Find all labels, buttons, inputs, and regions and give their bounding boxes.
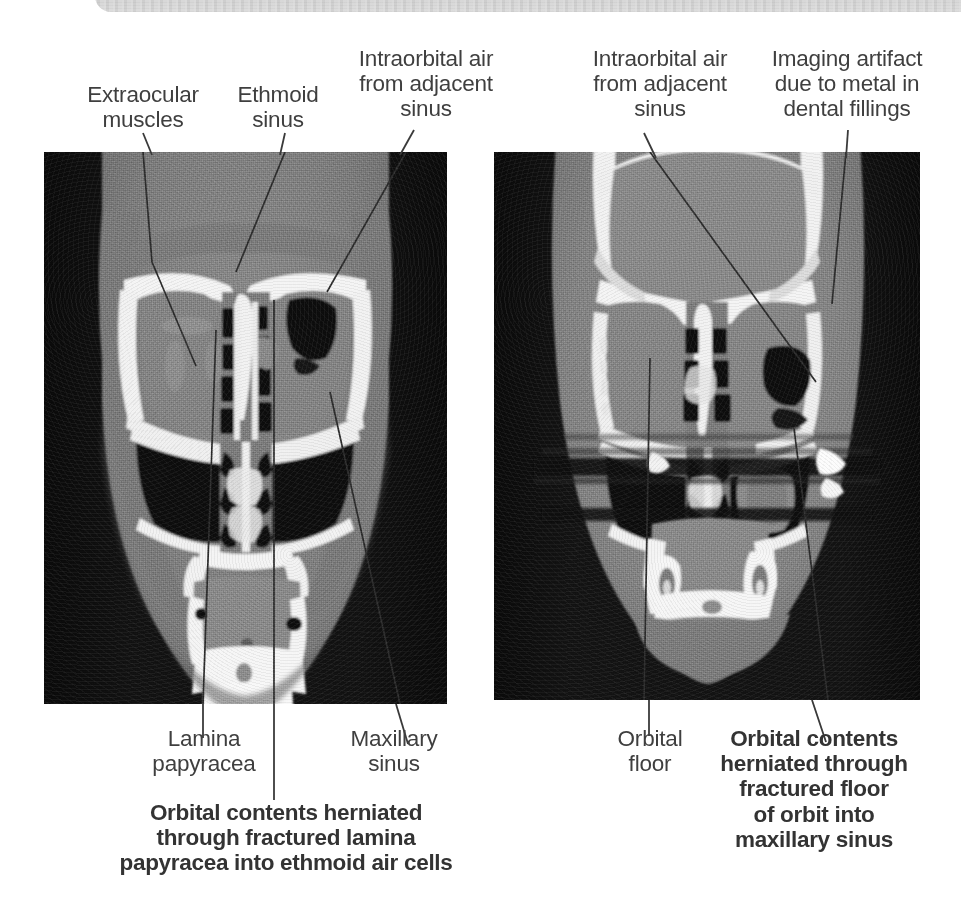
- label-ethmoid-sinus: Ethmoid sinus: [224, 82, 332, 132]
- ct-panel-right: [494, 152, 920, 700]
- label-intraorbital-air-left: Intraorbital air from adjacent sinus: [344, 46, 508, 122]
- ct-panel-left: [44, 152, 447, 704]
- ct-image-left: [44, 152, 447, 704]
- label-orbital-floor: Orbital floor: [598, 726, 702, 776]
- label-imaging-artifact: Imaging artifact due to metal in dental …: [754, 46, 940, 122]
- medical-figure: Extraocular muscles Ethmoid sinus Intrao…: [0, 0, 961, 917]
- label-intraorbital-air-right: Intraorbital air from adjacent sinus: [578, 46, 742, 122]
- label-maxillary-sinus: Maxillary sinus: [330, 726, 458, 776]
- ct-image-right: [494, 152, 920, 700]
- label-lamina-papyracea: Lamina papyracea: [138, 726, 270, 776]
- page-chrome-bar: [95, 0, 961, 12]
- page-chrome-texture: [95, 0, 961, 12]
- caption-herniation-maxillary: Orbital contents herniated through fract…: [702, 726, 926, 852]
- label-extraocular-muscles: Extraocular muscles: [68, 82, 218, 132]
- caption-herniation-ethmoid: Orbital contents herniated through fract…: [90, 800, 482, 876]
